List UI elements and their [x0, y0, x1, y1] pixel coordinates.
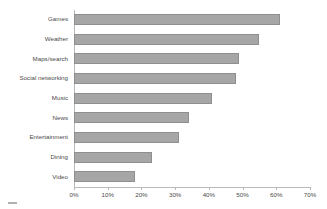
x-axis-line — [74, 187, 310, 188]
category-label: Music — [52, 95, 68, 101]
plot-area — [74, 10, 310, 187]
bar — [74, 112, 189, 123]
x-axis-tick — [108, 187, 109, 190]
category-label: Video — [52, 174, 68, 180]
bar — [74, 34, 259, 45]
bar — [74, 171, 135, 182]
bar-row — [74, 128, 310, 148]
bar — [74, 73, 236, 84]
bar-row — [74, 49, 310, 69]
bar-row — [74, 108, 310, 128]
bar — [74, 14, 280, 25]
x-axis-tick — [74, 187, 75, 190]
category-label: News — [53, 115, 68, 121]
x-axis-tick — [310, 187, 311, 190]
bar-row — [74, 10, 310, 30]
x-axis-tick-label: 30% — [169, 192, 181, 198]
category-label: Games — [48, 16, 68, 22]
bar — [74, 132, 179, 143]
bar — [74, 53, 239, 64]
corner-mark — [8, 202, 17, 204]
x-axis-tick — [276, 187, 277, 190]
bar-row — [74, 148, 310, 168]
x-axis-tick — [141, 187, 142, 190]
category-label: Maps/search — [33, 56, 68, 62]
x-axis-tick-label: 0% — [70, 192, 79, 198]
bar-row — [74, 69, 310, 89]
x-axis-tick-label: 50% — [236, 192, 248, 198]
x-axis-tick-label: 10% — [102, 192, 114, 198]
category-label: Weather — [45, 36, 68, 42]
x-axis-tick — [209, 187, 210, 190]
x-axis-tick-label: 70% — [304, 192, 316, 198]
bar-row — [74, 30, 310, 50]
bar-row — [74, 89, 310, 109]
bar — [74, 152, 152, 163]
x-axis-tick — [243, 187, 244, 190]
x-axis-tick-label: 40% — [203, 192, 215, 198]
category-label: Social networking — [20, 75, 69, 81]
x-axis-tick-label: 20% — [135, 192, 147, 198]
x-axis-tick — [175, 187, 176, 190]
x-axis-tick-label: 60% — [270, 192, 282, 198]
bar-row — [74, 167, 310, 187]
bar — [74, 93, 212, 104]
bar-chart: 0%10%20%30%40%50%60%70% GamesWeatherMaps… — [0, 0, 327, 209]
category-label: Entertainment — [29, 134, 68, 140]
category-label: Dining — [50, 154, 68, 160]
